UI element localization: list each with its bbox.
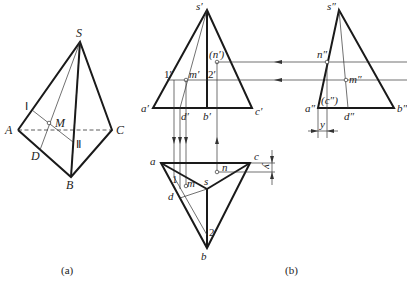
label-d-front: d′ [181,110,190,122]
label-m-side: m″ [349,73,362,85]
label-d-top: d [168,190,174,202]
label-a: A [4,123,13,137]
label-s: S [76,26,82,40]
label-n-front: (n′) [209,48,225,61]
label-c: C [116,123,125,137]
dim-arrow-up [270,172,274,179]
label-s-top: s [204,175,208,187]
point-n-top [215,170,219,174]
front-triangle [153,10,252,108]
point-n-side [325,60,329,64]
label-ii: Ⅱ [76,138,81,150]
label-c-top: c [254,150,259,162]
label-d-side: d″ [344,110,355,122]
label-c-side: (c″) [321,94,338,107]
dim-arrow-down [270,156,274,163]
arrow-down-1 [172,137,176,144]
label-m: M [54,116,66,130]
label-m-front: m′ [189,68,200,80]
label-b-front: b′ [203,110,212,122]
point-m [47,121,51,125]
label-b-top: b [201,250,207,262]
dim-arrow-right [311,129,318,133]
label-a-top: a [150,155,156,167]
arrow-up-n [215,137,219,144]
label-s-side: s″ [327,0,336,12]
figure-a-pyramid: S A C B D M Ⅰ Ⅱ (a) [4,26,125,277]
label-b: B [66,178,74,192]
caption-b: (b) [285,264,298,277]
projection-diagram: S A C B D M Ⅰ Ⅱ (a) s′ a′ b′ c′ d′ m′ (n… [0,0,407,285]
label-c-front: c′ [255,105,263,117]
label-s-front: s′ [196,0,203,12]
label-2-top: 2 [209,226,215,238]
line-i-ii [32,110,73,142]
label-1-top: 1 [172,173,178,185]
label-y-side: y [319,118,325,130]
label-i: Ⅰ [25,100,28,112]
arrow-down-m [184,137,188,144]
label-y-top: y [262,163,274,169]
label-n-side: n″ [317,48,328,60]
dim-arrow-left [327,129,334,133]
label-b-side: b″ [397,102,407,114]
arrow-left-n [274,60,282,64]
top-line-sd [180,189,207,198]
label-n-top: n [222,161,228,173]
label-2-front: 2′ [208,68,216,80]
label-a-front: a′ [141,102,150,114]
vertical-projection-lines [172,62,219,189]
label-m-top: m [187,177,195,189]
label-1-front: 1′ [164,68,172,80]
side-view: s″ a″ b″ (c″) d″ m″ n″ y [305,0,407,138]
front-line-sd [180,10,207,108]
arrow-down-d [178,137,182,144]
label-a-side: a″ [305,102,316,114]
caption-a: (a) [61,264,74,277]
arrow-left-m [274,78,282,82]
point-m-side [344,78,348,82]
label-d: D [30,149,40,163]
top-view: a c b s d m n 1 2 y [150,150,275,262]
